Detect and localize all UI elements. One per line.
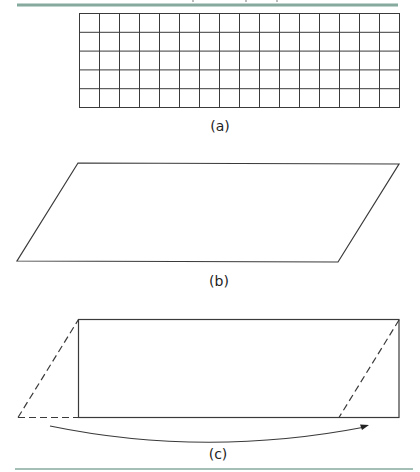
figure-b-parallelogram [17, 163, 399, 262]
figure-b-label: (b) [209, 273, 229, 289]
figure-c-rectangle [79, 320, 400, 418]
curved-arrow [50, 426, 365, 442]
figure-c-label: (c) [209, 446, 228, 462]
figure-c-diagram [18, 320, 399, 443]
arrowhead-icon [360, 425, 369, 431]
figure-c-dashed-right-slant [339, 320, 399, 418]
figure-a-grid [80, 14, 400, 108]
figure-a-label: (a) [210, 118, 230, 134]
diagram-canvas: (a) (b) (c) [0, 0, 420, 472]
cropped-header-text [192, 0, 278, 2]
figure-c-dashed-left-slant [18, 320, 79, 418]
